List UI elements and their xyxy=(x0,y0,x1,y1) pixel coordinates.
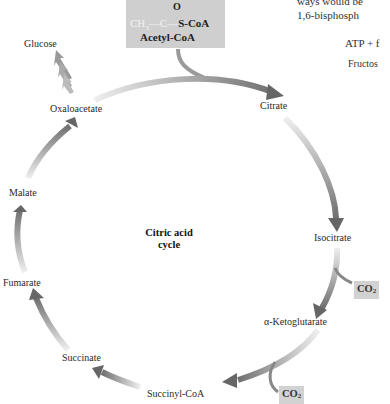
arrow-oxaloacetate-citrate xyxy=(95,79,272,100)
arrow-ketoglutarate-succinylcoa xyxy=(238,330,318,380)
cycle-center-label: Citric acid cycle xyxy=(136,227,202,251)
co2-subscript: 2 xyxy=(298,392,302,400)
arrowhead xyxy=(29,288,44,300)
carbonyl-oxygen: O xyxy=(173,1,181,12)
bond: — xyxy=(167,17,178,29)
acetyl-coa-arrow xyxy=(178,49,205,78)
arrowhead xyxy=(13,205,27,212)
label-isocitrate: Isocitrate xyxy=(314,232,351,243)
co2-label: CO xyxy=(282,388,298,399)
arrowhead xyxy=(328,218,344,232)
center-label-line1: Citric acid xyxy=(136,227,202,239)
co2-output-2: CO2 xyxy=(279,386,304,404)
methyl-group: CH3 xyxy=(130,17,149,29)
arrow-citrate-isocitrate xyxy=(285,118,336,218)
co2-subscript: 2 xyxy=(373,287,377,295)
arrow-malate-oxaloacetate xyxy=(28,126,70,178)
acetyl-coa-box: O CH3—C—S-CoA Acetyl-CoA xyxy=(126,0,225,48)
label-alpha-ketoglutarate: α-Ketoglutarate xyxy=(264,316,327,327)
label-succinate: Succinate xyxy=(62,352,101,363)
label-citrate: Citrate xyxy=(260,100,287,111)
arrow-oxaloacetate-glucose xyxy=(54,50,74,94)
arrow-fumarate-malate xyxy=(17,210,25,272)
center-label-line2: cycle xyxy=(136,239,202,251)
arrowhead xyxy=(266,84,284,100)
acetyl-coa-formula: CH3—C—S-CoA xyxy=(130,17,209,32)
acetyl-coa-name: Acetyl-CoA xyxy=(140,31,195,43)
arrow-isocitrate-ketoglutarate xyxy=(322,248,337,308)
arrowhead xyxy=(222,373,237,388)
label-malate: Malate xyxy=(9,187,37,198)
co2-label: CO xyxy=(357,283,373,294)
label-fumarate: Fumarate xyxy=(3,277,41,288)
arrow-succinylcoa-succinate xyxy=(102,372,140,387)
co2-output-1: CO2 xyxy=(354,281,379,299)
arrow-succinate-fumarate xyxy=(36,298,68,350)
label-oxaloacetate: Oxaloacetate xyxy=(50,103,102,114)
coa-thioester: S-CoA xyxy=(178,17,209,29)
label-succinyl-coa: Succinyl-CoA xyxy=(147,388,204,399)
label-glucose: Glucose xyxy=(24,38,57,49)
bond: — xyxy=(149,17,160,29)
methyl-label: CH xyxy=(130,17,145,29)
